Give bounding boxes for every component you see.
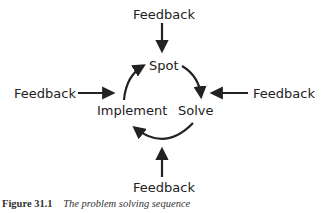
feedback-bottom-label: Feedback bbox=[133, 181, 195, 194]
cycle-arrow-solve-to-implement bbox=[135, 123, 193, 139]
feedback-top-label: Feedback bbox=[133, 8, 195, 21]
node-solve: Solve bbox=[178, 104, 214, 117]
cycle-arrow-implement-to-spot bbox=[124, 66, 143, 100]
cycle-arrow-spot-to-solve bbox=[182, 66, 201, 96]
figure-number: Figure 31.1 bbox=[2, 198, 53, 209]
node-implement: Implement bbox=[97, 104, 167, 117]
feedback-right-label: Feedback bbox=[253, 87, 315, 100]
figure-caption: Figure 31.1 The problem solving sequence bbox=[2, 198, 190, 209]
feedback-left-label: Feedback bbox=[14, 87, 76, 100]
figure-title: The problem solving sequence bbox=[63, 198, 190, 209]
node-spot: Spot bbox=[149, 59, 179, 72]
